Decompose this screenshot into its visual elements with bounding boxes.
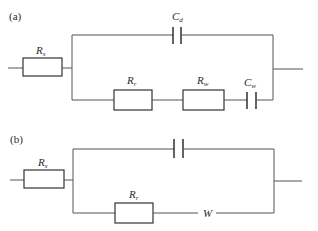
resistor-rs-a xyxy=(23,58,62,76)
label-rs-a: Rs xyxy=(35,44,46,58)
label-cd: Cd xyxy=(172,10,183,24)
resistor-rr-b xyxy=(115,203,153,223)
label-rr-b: Rr xyxy=(128,188,139,202)
circuit-figure: (a) Rs Cd Rr Rw Cw (b) xyxy=(0,0,318,231)
label-cw: Cw xyxy=(244,76,256,90)
panel-a: (a) Rs Cd Rr Rw Cw xyxy=(8,10,303,110)
resistor-rr-a xyxy=(114,90,152,110)
resistor-rw xyxy=(183,90,224,110)
label-warburg: W xyxy=(203,207,213,219)
panel-a-label: (a) xyxy=(9,10,22,23)
label-rr-a: Rr xyxy=(126,74,137,88)
label-rw: Rw xyxy=(196,74,209,88)
panel-b: (b) Rs Rr W xyxy=(10,133,302,223)
resistor-rs-b xyxy=(24,170,64,188)
label-rs-b: Rs xyxy=(37,156,48,170)
panel-b-label: (b) xyxy=(10,133,23,146)
